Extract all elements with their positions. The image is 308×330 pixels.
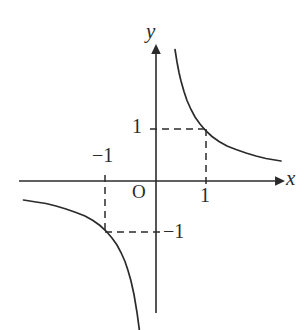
y-axis-label: y <box>146 21 155 42</box>
y-tick-label-one: 1 <box>132 116 142 136</box>
hyperbola-figure: y x O 1 −1 1 −1 <box>0 0 308 330</box>
x-tick-label-negative-one: −1 <box>92 145 113 165</box>
x-axis-label: x <box>286 168 295 189</box>
curve-branch-lower-left <box>24 200 140 330</box>
curve-branch-upper-right <box>175 50 281 162</box>
x-tick-label-one: 1 <box>200 185 210 205</box>
plot-canvas <box>0 0 308 330</box>
y-tick-label-negative-one: −1 <box>163 221 184 241</box>
origin-label: O <box>132 182 146 201</box>
